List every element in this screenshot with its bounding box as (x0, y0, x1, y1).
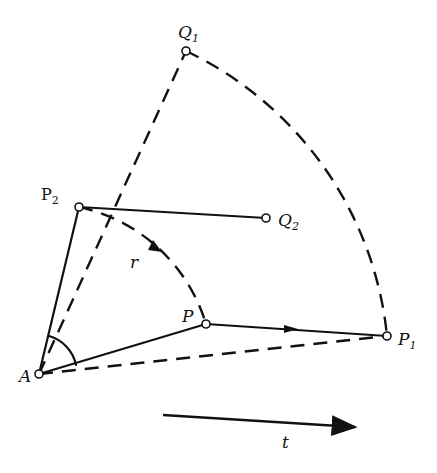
point-P (202, 320, 210, 328)
label-Q1: Q1 (178, 22, 199, 45)
point-Q2 (262, 214, 270, 222)
line-P-P1 (206, 324, 387, 336)
line-A-P (39, 324, 206, 374)
dashed-arc-Q1-P1 (186, 51, 387, 336)
line-A-P2 (39, 207, 79, 374)
dashed-line-A-P1 (39, 336, 387, 374)
label-P2: P2 (41, 185, 59, 207)
label-A: A (17, 366, 31, 386)
label-P1: P1 (397, 329, 416, 352)
label-time-t: t (282, 432, 289, 452)
label-Q2: Q2 (278, 210, 299, 233)
label-P: P (181, 306, 194, 326)
point-A (35, 370, 43, 378)
time-arrow (163, 415, 355, 427)
point-P1 (383, 332, 391, 340)
point-Q1 (182, 47, 190, 55)
arrow-on-P-P1-icon (284, 325, 298, 333)
point-P2 (75, 203, 83, 211)
label-radius-r: r (130, 252, 139, 272)
rotation-diagram: A P P1 P2 Q1 Q2 r t (0, 0, 437, 473)
